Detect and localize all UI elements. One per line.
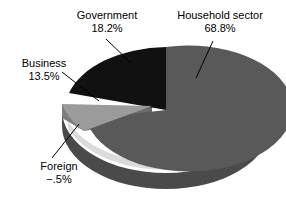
pie-chart-figure: Household sector 68.8% Government 18.2% … [0,0,286,197]
slice-label-foreign-name: Foreign [16,160,102,173]
slice-label-household-name: Household sector [160,9,280,22]
slice-label-government-value: 18.2% [54,22,160,35]
slice-label-government: Government 18.2% [54,9,160,35]
slice-label-foreign: Foreign −.5% [16,160,102,186]
slice-label-foreign-value: −.5% [16,173,102,186]
slice-label-business: Business 13.5% [2,57,86,83]
slice-label-business-value: 13.5% [2,70,86,83]
slice-label-government-name: Government [54,9,160,22]
slice-label-business-name: Business [2,57,86,70]
slice-label-household-value: 68.8% [160,22,280,35]
slice-label-household: Household sector 68.8% [160,9,280,35]
